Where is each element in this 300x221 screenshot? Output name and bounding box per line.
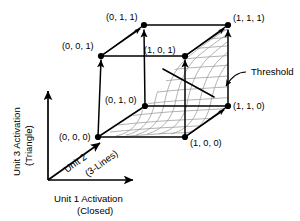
x-axis-label-group: Unit 1 Activation (Closed) <box>54 193 123 216</box>
vertex-label-001: (0, 0, 1) <box>62 41 94 51</box>
vertex-label-100: (1, 0, 0) <box>190 138 222 148</box>
x-axis-label-line1: Unit 1 Activation <box>54 193 123 204</box>
vertex-label-010: (0, 1, 0) <box>105 95 137 105</box>
y-axis-label-group: Unit 3 Activation (Triangle) <box>11 107 34 176</box>
vertex-dot-110 <box>225 103 231 109</box>
activation-cube-figure: Threshold (0, 0, 0) (1, 0, 0) (0, 1, 0) … <box>0 0 300 221</box>
z-axis-label-group: Unit 2 (3-Lines) <box>62 147 120 178</box>
vertex-dot-000 <box>95 134 101 140</box>
vertex-label-101: (1, 0, 1) <box>144 45 176 55</box>
edge-000-001 <box>98 60 101 137</box>
threshold-tick-line <box>163 69 214 97</box>
vertex-dot-011 <box>141 22 147 28</box>
edge-101-111-arrow <box>185 29 224 56</box>
vertex-dot-101 <box>182 53 188 59</box>
edge-100-110-arrow <box>185 110 224 137</box>
vertex-dot-100 <box>182 134 188 140</box>
edge-010-011 <box>144 30 145 106</box>
vertex-label-000: (0, 0, 0) <box>59 132 91 142</box>
vertex-label-011: (0, 1, 1) <box>106 12 138 22</box>
vertex-dot-010 <box>142 103 148 109</box>
x-axis-label-line2: (Closed) <box>77 205 113 216</box>
y-axis-label-line1: Unit 3 Activation <box>11 107 22 176</box>
threshold-label: Threshold <box>251 66 294 77</box>
threshold-leader-arrow <box>226 72 246 86</box>
vertex-label-110: (1, 1, 0) <box>233 101 265 111</box>
vertex-dot-111 <box>225 22 231 28</box>
edge-001-011-arrow <box>101 29 140 56</box>
vertex-label-111: (1, 1, 1) <box>233 13 265 23</box>
mesh-cross-ribs <box>108 27 255 138</box>
vertex-dot-001 <box>98 53 104 59</box>
y-axis-label-line2: (Triangle) <box>23 125 34 166</box>
cube-diagram-canvas: Threshold (0, 0, 0) (1, 0, 0) (0, 1, 0) … <box>0 0 300 221</box>
threshold-sigmoid-surface <box>108 27 255 138</box>
